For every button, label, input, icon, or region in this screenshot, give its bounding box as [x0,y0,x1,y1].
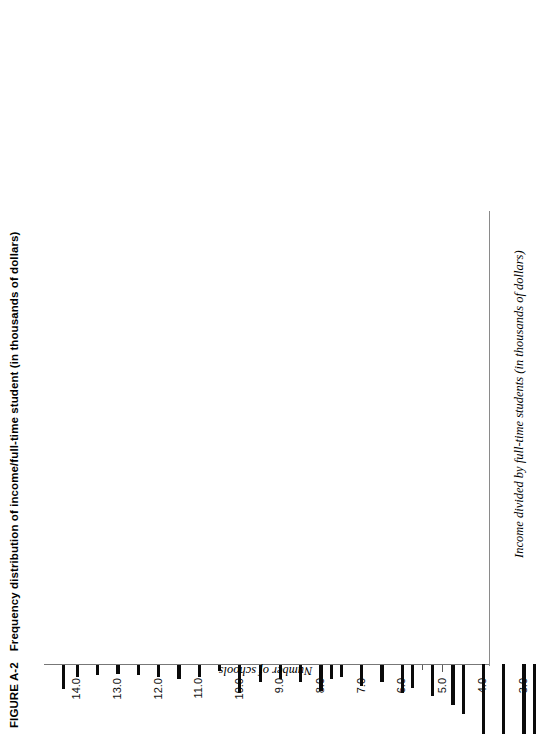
income-tick-label: 13.0 [111,678,123,718]
figure-page: FIGURE A-2Frequency distribution of inco… [0,0,538,734]
histogram-bar [340,665,343,677]
histogram-bar [451,665,454,706]
income-tick-label: 11.0 [192,678,204,718]
histogram-bar [411,665,414,688]
histogram-bar [116,665,119,674]
histogram-bar [177,665,180,679]
income-tick-label: 5.0 [436,678,448,718]
histogram-bar [157,665,160,677]
histogram-bar [62,665,65,690]
income-tick-label: 14.0 [70,678,82,718]
histogram-bar [96,665,99,676]
histogram-bar [431,665,434,696]
histogram-bar [482,665,485,734]
income-tick-label: 12.0 [152,678,164,718]
histogram-bar [533,665,536,734]
y-axis-title: Number of schools [196,663,336,678]
income-tick [422,665,423,670]
histogram-bar [76,665,79,677]
histogram-plot: 1.02.03.04.05.06.07.08.09.010.011.012.01… [0,0,538,734]
histogram-bar [462,665,465,715]
schools-axis-line [489,211,490,666]
histogram-bar [401,665,404,693]
income-tick [442,665,443,672]
histogram-bar [522,665,525,734]
histogram-bar [380,665,383,682]
x-axis-title: Income divided by full-time students (in… [512,250,527,558]
histogram-bar [137,665,140,676]
histogram-bar [502,665,505,734]
histogram-bar [360,665,363,687]
income-tick-label: 9.0 [273,678,285,718]
